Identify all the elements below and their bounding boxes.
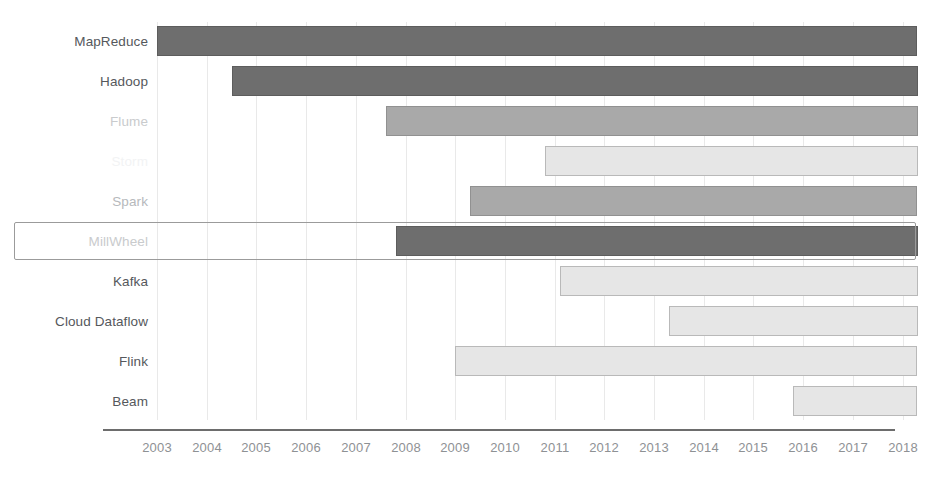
row-label-flink: Flink — [0, 341, 148, 381]
row-label-flume: Flume — [0, 101, 148, 141]
x-tick-2008: 2008 — [381, 440, 431, 455]
x-tick-2012: 2012 — [579, 440, 629, 455]
row-label-hadoop: Hadoop — [0, 61, 148, 101]
bar-flume[interactable] — [386, 106, 918, 136]
x-tick-2004: 2004 — [182, 440, 232, 455]
figure-caption — [8, 466, 528, 484]
bar-row[interactable]: Hadoop — [0, 61, 933, 101]
bar-kafka[interactable] — [560, 266, 918, 296]
bar-mapreduce[interactable] — [157, 26, 917, 56]
row-label-spark: Spark — [0, 181, 148, 221]
x-tick-2013: 2013 — [629, 440, 679, 455]
x-tick-2011: 2011 — [530, 440, 580, 455]
x-tick-2017: 2017 — [828, 440, 878, 455]
x-axis-tick-labels: 2003200420052006200720082009201020112012… — [0, 440, 933, 462]
bar-row[interactable]: Flink — [0, 341, 933, 381]
bar-cloud-dataflow[interactable] — [669, 306, 918, 336]
row-label-mapreduce: MapReduce — [0, 21, 148, 61]
bar-row[interactable]: Spark — [0, 181, 933, 221]
row-label-kafka: Kafka — [0, 261, 148, 301]
x-tick-2009: 2009 — [430, 440, 480, 455]
bar-row[interactable]: Cloud Dataflow — [0, 301, 933, 341]
x-tick-2005: 2005 — [231, 440, 281, 455]
bar-row[interactable]: MapReduce — [0, 21, 933, 61]
x-tick-2007: 2007 — [331, 440, 381, 455]
bar-row[interactable]: Flume — [0, 101, 933, 141]
bar-row[interactable]: Beam — [0, 381, 933, 421]
millwheel-highlight-box[interactable] — [14, 222, 916, 260]
bar-hadoop[interactable] — [232, 66, 918, 96]
x-tick-2016: 2016 — [778, 440, 828, 455]
bar-row[interactable]: Kafka — [0, 261, 933, 301]
x-tick-2018: 2018 — [878, 440, 928, 455]
x-tick-2014: 2014 — [679, 440, 729, 455]
row-label-cloud-dataflow: Cloud Dataflow — [0, 301, 148, 341]
x-tick-2010: 2010 — [480, 440, 530, 455]
bar-spark[interactable] — [470, 186, 917, 216]
row-label-storm: Storm — [0, 141, 148, 181]
x-tick-2003: 2003 — [132, 440, 182, 455]
bar-row[interactable]: Storm — [0, 141, 933, 181]
timeline-gantt-chart: MapReduceHadoopFlumeStormSparkMillWheelK… — [0, 0, 933, 488]
bar-flink[interactable] — [455, 346, 917, 376]
bar-storm[interactable] — [545, 146, 918, 176]
plot-area: MapReduceHadoopFlumeStormSparkMillWheelK… — [0, 0, 933, 430]
bar-beam[interactable] — [793, 386, 917, 416]
x-axis-line — [103, 429, 895, 431]
row-label-beam: Beam — [0, 381, 148, 421]
x-tick-2015: 2015 — [728, 440, 778, 455]
x-tick-2006: 2006 — [281, 440, 331, 455]
